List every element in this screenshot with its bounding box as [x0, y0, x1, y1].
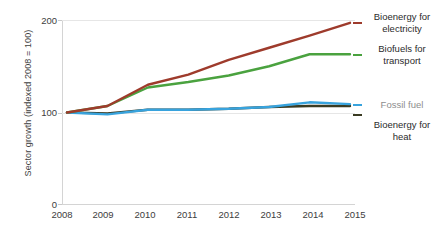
series-label-bioenergy-electricity-line1: Bioenergy for: [363, 11, 441, 23]
x-tick-label-2009: 2009: [83, 209, 123, 220]
leader-line-bioenergy-electricity: [353, 22, 362, 24]
y-tick-label-200: 200: [23, 15, 57, 26]
line-chart: Sector growth (indexed 2008 = 100) 200 1…: [0, 0, 443, 242]
series-label-bioenergy-heat-line1: Bioenergy for: [363, 119, 441, 131]
y-axis-title: Sector growth (indexed 2008 = 100): [23, 3, 33, 203]
leader-line-fossil-fuel: [353, 104, 362, 106]
series-label-fossil-fuel-text: Fossil fuel: [363, 99, 441, 111]
series-label-bioenergy-electricity-line2: electricity: [363, 23, 441, 35]
leader-line-biofuels-transport: [353, 54, 362, 56]
plot-area: [62, 20, 355, 205]
series-label-biofuels-transport-line1: Biofuels for: [363, 43, 441, 55]
series-label-biofuels-transport: Biofuels for transport: [363, 43, 441, 66]
series-label-bioenergy-heat: Bioenergy for heat: [363, 119, 441, 142]
x-tick-label-2015: 2015: [335, 209, 375, 220]
x-tick-label-2011: 2011: [167, 209, 207, 220]
x-tick-label-2013: 2013: [251, 209, 291, 220]
series-layer: [62, 20, 355, 205]
series-label-fossil-fuel: Fossil fuel: [363, 99, 441, 111]
series-label-bioenergy-electricity: Bioenergy for electricity: [363, 11, 441, 34]
x-tick-label-2010: 2010: [125, 209, 165, 220]
series-line-bioenergy-electricity: [67, 23, 350, 113]
x-tick-label-2012: 2012: [209, 209, 249, 220]
series-label-bioenergy-heat-line2: heat: [363, 131, 441, 143]
series-label-biofuels-transport-line2: transport: [363, 55, 441, 67]
y-tick-label-100: 100: [23, 107, 57, 118]
x-tick-label-2008: 2008: [42, 209, 82, 220]
x-tick-label-2014: 2014: [293, 209, 333, 220]
leader-line-bioenergy-heat: [353, 114, 362, 116]
